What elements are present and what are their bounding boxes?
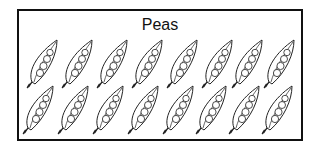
- pea-pod-icon: [27, 40, 57, 88]
- pea-pod-icon: [232, 40, 262, 88]
- pod-row-top: [27, 40, 294, 88]
- pea-pod-icon: [163, 86, 193, 134]
- pea-pod-icon: [97, 40, 127, 88]
- pea-pod-icon: [229, 86, 259, 134]
- pea-pod-icon: [58, 86, 88, 134]
- pea-pod-icon: [262, 86, 292, 134]
- pea-pod-icon: [62, 40, 92, 88]
- pea-pod-icon: [167, 40, 197, 88]
- pea-pod-icon: [23, 86, 53, 134]
- pea-pod-icon: [196, 86, 226, 134]
- pea-pod-icon: [93, 86, 123, 134]
- pea-pod-icon: [264, 40, 294, 88]
- pea-pod-icon: [128, 86, 158, 134]
- pea-pod-icon: [202, 40, 232, 88]
- pea-pod-grid: [0, 0, 322, 147]
- pea-pod-icon: [132, 40, 162, 88]
- pod-row-bottom: [23, 86, 292, 134]
